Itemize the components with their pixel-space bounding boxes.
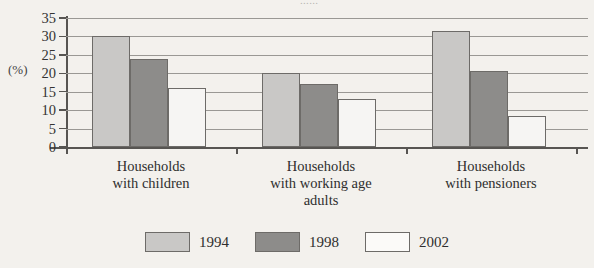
light-gray-swatch <box>145 232 190 252</box>
legend-label: 2002 <box>419 234 449 251</box>
gridline <box>66 36 588 37</box>
bar-chart: (%) 05101520253035 Households with child… <box>0 0 594 220</box>
plot-area: 05101520253035 <box>66 18 588 147</box>
legend-label: 1994 <box>199 234 229 251</box>
y-axis-tick <box>59 54 66 56</box>
bar-1998-group-2 <box>300 84 338 147</box>
y-axis-tick <box>59 36 66 38</box>
category-tick <box>66 147 68 154</box>
y-axis-tick-label: 35 <box>42 10 57 27</box>
bar-1998-group-3 <box>470 71 508 147</box>
y-axis-tick <box>59 17 66 19</box>
dark-gray-swatch <box>255 232 300 252</box>
bar-2002-group-2 <box>338 99 376 147</box>
y-axis-tick-label: 5 <box>49 120 56 137</box>
y-axis-tick <box>59 73 66 75</box>
chart-legend: 199419982002 <box>0 232 594 252</box>
y-axis-tick-label: 20 <box>42 65 57 82</box>
category-label-1: Households with children <box>61 158 241 192</box>
y-axis-tick-label: 25 <box>42 46 57 63</box>
y-axis-tick <box>59 128 66 130</box>
white-swatch <box>365 232 410 252</box>
y-axis-title: (%) <box>8 62 28 78</box>
category-label-2: Households with working age adults <box>231 158 411 209</box>
bar-1994-group-2 <box>262 73 300 147</box>
legend-item-1994: 1994 <box>145 232 229 252</box>
bar-2002-group-1 <box>168 88 206 147</box>
legend-item-2002: 2002 <box>365 232 449 252</box>
y-axis-tick-label: 10 <box>42 102 57 119</box>
y-axis-tick-label: 0 <box>49 139 56 156</box>
category-tick <box>406 147 408 154</box>
gridline <box>66 18 588 19</box>
y-axis-tick-label: 30 <box>42 28 57 45</box>
category-label-3: Households with pensioners <box>401 158 581 192</box>
legend-item-1998: 1998 <box>255 232 339 252</box>
bar-2002-group-3 <box>508 116 546 147</box>
bar-1998-group-1 <box>130 59 168 147</box>
gridline <box>66 55 588 56</box>
y-axis-tick <box>59 146 66 148</box>
bar-1994-group-3 <box>432 31 470 147</box>
y-axis-tick-label: 15 <box>42 83 57 100</box>
category-tick <box>576 147 578 154</box>
legend-label: 1998 <box>309 234 339 251</box>
y-axis-tick <box>59 109 66 111</box>
category-tick <box>236 147 238 154</box>
x-axis-line <box>50 147 588 149</box>
y-axis-tick <box>59 91 66 93</box>
bar-1994-group-1 <box>92 36 130 147</box>
